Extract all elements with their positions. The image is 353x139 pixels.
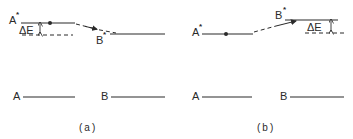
a-delta-e-label: ΔE (19, 25, 34, 36)
diagram-lines (0, 0, 353, 139)
b-delta-e-label: ΔE (307, 22, 322, 33)
a-ground-A-label: A (13, 91, 20, 102)
a-excitation-dot (48, 21, 52, 25)
panel-b (202, 20, 346, 97)
a-caption: (a) (79, 123, 97, 133)
b-excited-A-star: * (199, 23, 202, 31)
panel-a (21, 21, 165, 97)
b-excited-B-label: B (275, 10, 282, 21)
b-transfer-dashed-arrow (254, 26, 276, 32)
b-ground-B-label: B (280, 91, 287, 102)
a-ground-B-label: B (101, 91, 108, 102)
energy-level-diagram: A * ΔE B * A B (a) A * B * ΔE A B (b) (0, 0, 353, 139)
b-excitation-dot (224, 32, 228, 36)
a-excited-A-star: * (16, 11, 19, 19)
a-excited-B-star: * (103, 31, 106, 39)
b-caption: (b) (257, 123, 275, 133)
b-ground-A-label: A (192, 91, 199, 102)
b-excited-B-star: * (283, 6, 286, 14)
